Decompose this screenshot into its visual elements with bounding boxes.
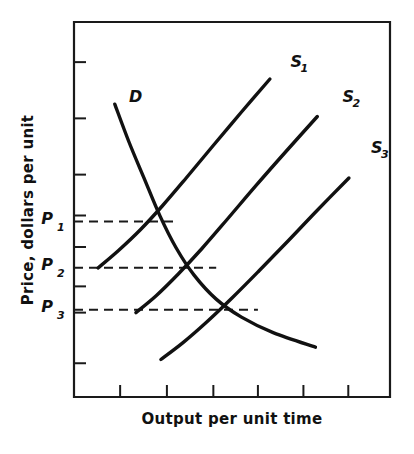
price-label-subscript: 2 [57,267,65,280]
curve-label-subscript: 1 [300,62,308,75]
price-label-subscript: 3 [57,309,65,322]
curve-label-s1: S1 [290,52,308,75]
plot-frame [74,22,390,397]
price-label-p1: P1 [41,209,65,234]
y-axis-title: Price, dollars per unit [19,115,37,306]
price-label-text: P [41,255,53,274]
price-label-p3: P3 [41,297,65,322]
frame-border [74,22,390,397]
curve-label-d: D [129,87,142,106]
price-label-text: P [41,297,53,316]
curve-label-s2: S2 [343,87,361,110]
figure-container: DS1S2S3 P1P2P3 Output per unit time Pric… [0,0,414,454]
curve-s1 [98,79,270,268]
price-labels-group: P1P2P3 [41,209,65,322]
price-label-p2: P2 [41,255,65,280]
curve-labels-group: DS1S2S3 [129,52,389,161]
x-axis-ticks [120,385,348,397]
curve-label-subscript: 2 [353,97,361,110]
price-label-text: P [41,209,53,228]
x-axis-title: Output per unit time [142,410,323,428]
curves-group [98,79,349,360]
curve-label-s3: S3 [371,138,389,161]
curve-label-subscript: 3 [381,148,389,161]
curve-s2 [136,117,317,313]
supply-demand-chart: DS1S2S3 P1P2P3 Output per unit time Pric… [0,0,414,454]
y-axis-ticks [74,62,86,363]
curve-label-text: D [129,87,142,106]
price-label-subscript: 1 [57,221,65,234]
